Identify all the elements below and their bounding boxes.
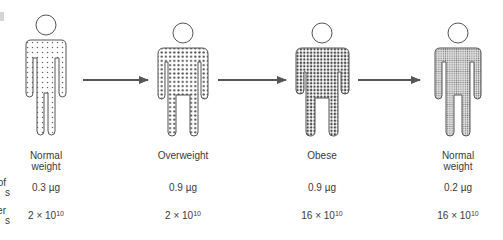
count-exponent: 10 — [56, 210, 64, 217]
count-base: 10 — [45, 210, 56, 221]
row-label-fat-cell-size: of s — [0, 178, 10, 198]
fat-cell-count-value: 2 × 1010 — [165, 210, 201, 221]
count-base: 10 — [324, 210, 335, 221]
stage-label-line: Obese — [307, 150, 336, 161]
fat-cell-count-value: 2 × 1010 — [28, 210, 64, 221]
clipped-caption-fragment — [0, 12, 4, 21]
fat-cell-count-value: 16 × 1010 — [301, 210, 342, 221]
fat-cell-size-value: 0.9 µg — [169, 182, 197, 193]
count-base: 10 — [460, 210, 471, 221]
stage-label-line: Normal — [442, 150, 474, 161]
diagram-canvas — [0, 0, 503, 240]
person-figure-normal-weight-initial — [26, 15, 66, 135]
count-exponent: 10 — [335, 210, 343, 217]
stage-label-line: weight — [30, 161, 62, 172]
stage-label-overweight: Overweight — [158, 150, 209, 161]
count-coefficient: 16 × — [301, 210, 321, 221]
count-exponent: 10 — [471, 210, 479, 217]
count-coefficient: 2 × — [165, 210, 179, 221]
person-figure-overweight — [158, 23, 208, 136]
count-coefficient: 2 × — [28, 210, 42, 221]
row-label-fat-cell-number: er s — [0, 206, 10, 226]
fat-cell-size-value: 0.2 µg — [444, 182, 472, 193]
stage-label-obese: Obese — [307, 150, 336, 161]
count-coefficient: 16 × — [437, 210, 457, 221]
stage-label-line: weight — [442, 161, 474, 172]
fat-cell-size-value: 0.3 µg — [32, 182, 60, 193]
row-label-fragment: s — [0, 216, 10, 226]
fat-cell-count-value: 16 × 1010 — [437, 210, 478, 221]
count-exponent: 10 — [193, 210, 201, 217]
stage-label-line: Normal — [30, 150, 62, 161]
stage-label-normal-weight-after: Normal weight — [442, 150, 474, 172]
person-figure-obese — [296, 23, 349, 136]
count-base: 10 — [182, 210, 193, 221]
stage-label-normal-weight-initial: Normal weight — [30, 150, 62, 172]
stage-label-line: Overweight — [158, 150, 209, 161]
person-figure-normal-weight-after — [435, 23, 481, 136]
fat-cell-size-value: 0.9 µg — [308, 182, 336, 193]
row-label-fragment: s — [0, 188, 10, 198]
